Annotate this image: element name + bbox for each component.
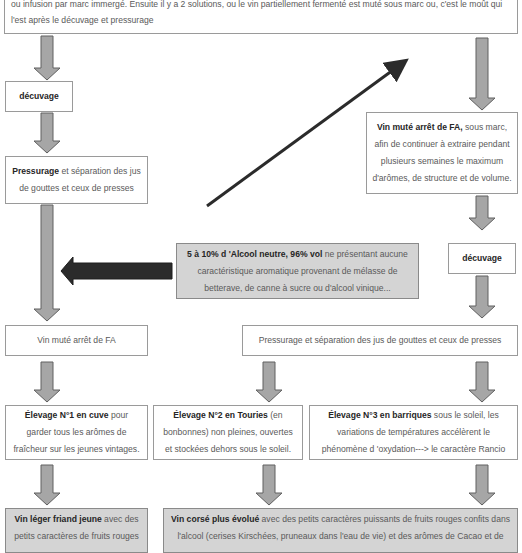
elevage-3-box: Élevage N°3 en barriques sous le soleil,… <box>309 405 518 460</box>
down-arrow-icon <box>469 362 495 402</box>
vin-mute-box-left: Vin muté arrêt de FA <box>5 325 148 356</box>
decuvage-label-left: décuvage <box>19 88 59 105</box>
intro-box: ou infusion par marc immergé. Ensuite il… <box>4 0 518 34</box>
result-1-bold: Vin léger friand jeune <box>14 514 101 524</box>
vin-mute-bold: Vin muté arrêt de FA, <box>377 122 463 132</box>
down-arrow-icon <box>469 465 495 505</box>
elevage-3-bold: Élevage N°3 en barriques <box>328 410 431 420</box>
elevage-1-bold: Élevage N°1 en cuve <box>25 410 109 420</box>
down-arrow-icon <box>469 38 495 110</box>
intro-text: ou infusion par marc immergé. Ensuite il… <box>11 0 511 28</box>
alcool-neutre-box: 5 à 10% d 'Alcool neutre, 96% vol ne pré… <box>176 243 419 299</box>
elevage-1-box: Élevage N°1 en cuve pour garder tous les… <box>5 405 148 460</box>
down-arrow-icon <box>256 362 282 402</box>
decuvage-label-right: décuvage <box>462 250 502 267</box>
down-arrow-icon <box>34 36 60 80</box>
pressurage-label-right: Pressurage et séparation des jus de gout… <box>259 332 502 349</box>
left-arrow-icon <box>61 257 172 285</box>
alcool-bold: 5 à 10% d 'Alcool neutre, 96% vol <box>187 249 322 259</box>
long-down-arrow-icon <box>34 205 60 321</box>
result-vin-corse-box: Vin corsé plus évolué avec des petits ca… <box>163 508 518 553</box>
down-arrow-icon <box>256 465 282 505</box>
elevage-2-box: Élevage N°2 en Touries (en bonbonnes) no… <box>153 405 303 460</box>
down-arrow-icon <box>34 362 60 402</box>
result-vin-leger-box: Vin léger friand jeune avec des petits c… <box>5 508 148 553</box>
down-arrow-icon <box>34 465 60 505</box>
elevage-2-bold: Élevage N°2 en Touries <box>173 410 268 420</box>
decuvage-box-left: décuvage <box>5 81 73 112</box>
vin-mute-label: Vin muté arrêt de FA <box>37 332 116 349</box>
pressurage-box-right: Pressurage et séparation des jus de gout… <box>242 325 518 356</box>
vin-mute-sous-marc-box: Vin muté arrêt de FA, sous marc, afin de… <box>366 112 518 194</box>
down-arrow-icon <box>469 276 495 318</box>
decuvage-box-right: décuvage <box>448 243 516 274</box>
result-2-bold: Vin corsé plus évolué <box>171 514 259 524</box>
pressurage-bold: Pressurage <box>12 166 59 176</box>
down-arrow-icon <box>469 196 495 230</box>
down-arrow-icon <box>34 113 60 153</box>
pressurage-box-left: Pressurage et séparation des jus de gout… <box>5 156 148 204</box>
